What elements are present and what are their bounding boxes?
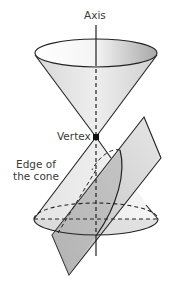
edge-of-cone-label: Edge of the cone — [6, 158, 66, 182]
axis-label: Axis — [84, 9, 106, 21]
vertex-marker — [93, 134, 99, 140]
cone-plane-illustration — [0, 0, 171, 284]
conic-section-diagram: Axis Vertex Edge of the cone — [0, 0, 171, 284]
vertex-label: Vertex — [57, 130, 91, 142]
